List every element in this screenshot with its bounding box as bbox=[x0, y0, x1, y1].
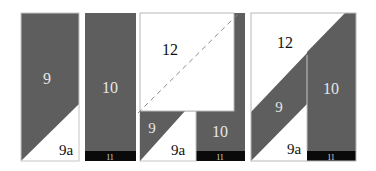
label-12: 12 bbox=[162, 41, 178, 58]
piece-12-square bbox=[140, 13, 234, 111]
label-9a: 9a bbox=[171, 142, 186, 158]
label-10: 10 bbox=[212, 123, 228, 140]
panel-1: 9 9a bbox=[21, 13, 79, 161]
panel-4: 12 9 9a 10 11 bbox=[251, 13, 356, 162]
label-9a: 9a bbox=[59, 142, 74, 158]
panel-2: 10 11 bbox=[85, 13, 136, 162]
label-9: 9 bbox=[43, 70, 51, 87]
label-9: 9 bbox=[148, 120, 156, 136]
label-9: 9 bbox=[275, 99, 283, 115]
label-11: 11 bbox=[216, 153, 224, 162]
label-12: 12 bbox=[277, 34, 293, 51]
panel-3: 12 9 9a 10 11 bbox=[138, 13, 245, 162]
label-10: 10 bbox=[323, 80, 339, 97]
label-9a: 9a bbox=[287, 141, 302, 157]
quilt-piecing-diagram: 9 9a 10 11 12 9 9a 10 11 12 9 9a 10 11 bbox=[0, 0, 376, 171]
label-11: 11 bbox=[327, 153, 335, 162]
label-11: 11 bbox=[106, 153, 114, 162]
label-10: 10 bbox=[102, 79, 118, 96]
